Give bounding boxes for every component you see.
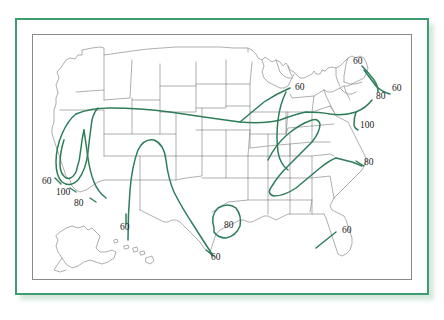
- state-boundaries: [52, 47, 368, 272]
- contour-label-florida-60: 60: [342, 226, 352, 236]
- contour-label-carolinas-80: 80: [364, 158, 374, 168]
- us-contour-map: [0, 0, 444, 320]
- contour-label-atlantic-60: 60: [392, 84, 402, 94]
- contour-label-california-100: 100: [56, 188, 70, 198]
- figure-root: 60 100 80 60 80 60 60 80 100 80 60 60 60: [0, 0, 444, 320]
- contour-label-maine-60: 60: [353, 57, 363, 67]
- contour-label-newengland-80: 80: [376, 92, 386, 102]
- contour-label-texas-60: 60: [211, 253, 221, 263]
- contour-tick-marks: [55, 161, 364, 256]
- contour-label-texas-80: 80: [224, 221, 234, 231]
- contour-label-california-60: 60: [42, 177, 52, 187]
- contour-label-california-80: 80: [74, 199, 84, 209]
- contour-label-greatlakes-60: 60: [295, 83, 305, 93]
- contour-label-southwest-60: 60: [120, 223, 130, 233]
- contour-label-midatlantic-100: 100: [360, 121, 374, 131]
- contour-lines: [56, 66, 390, 254]
